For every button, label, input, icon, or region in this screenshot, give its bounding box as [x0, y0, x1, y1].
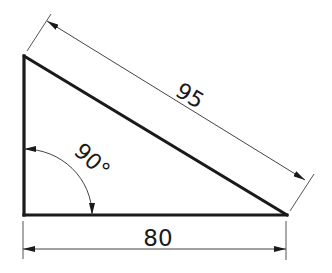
hypotenuse-extension-line-start: [27, 14, 51, 51]
angle-dimension: 90°: [24, 138, 115, 215]
triangle-hypotenuse: [24, 56, 287, 215]
base-label: 80: [143, 225, 172, 251]
hypotenuse-dimension: 95: [27, 14, 314, 211]
hypotenuse-extension-line-end: [290, 174, 314, 211]
angle-label: 90°: [69, 138, 115, 183]
hypotenuse-label: 95: [171, 78, 208, 114]
triangle-diagram: 95 80 90°: [0, 0, 332, 273]
base-dimension: 80: [23, 221, 286, 260]
triangle-shape: [24, 56, 287, 215]
